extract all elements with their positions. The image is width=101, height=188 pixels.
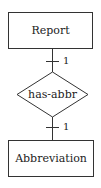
entity-report-label: Report xyxy=(8,25,93,36)
cardinality-label-top: 1 xyxy=(63,56,69,66)
entity-abbreviation-label: Abbreviation xyxy=(8,153,94,164)
cardinality-label-bottom: 1 xyxy=(63,122,69,132)
relationship-label: has-abbr xyxy=(17,89,88,100)
